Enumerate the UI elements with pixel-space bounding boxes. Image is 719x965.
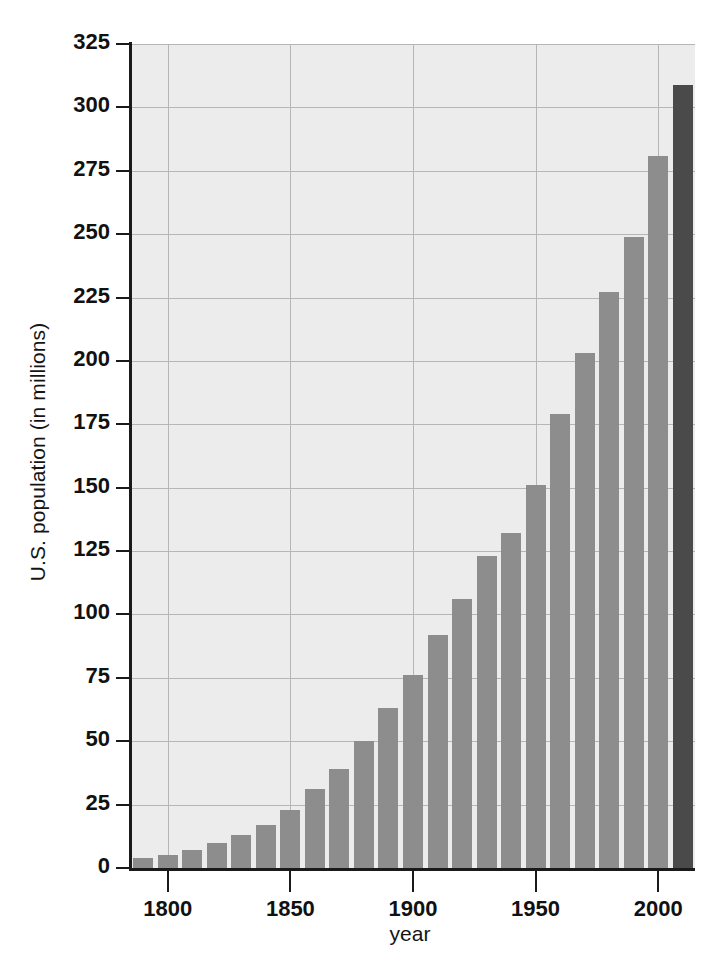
bar-1890 (378, 708, 398, 868)
y-tick-label-50: 50 (0, 726, 110, 752)
bar-1900 (403, 675, 423, 868)
bar-1940 (501, 533, 521, 868)
y-tick-mark (116, 677, 130, 679)
y-tick-label-150: 150 (0, 473, 110, 499)
bar-1950 (526, 485, 546, 868)
y-tick-label-200: 200 (0, 346, 110, 372)
y-tick-label-75: 75 (0, 663, 110, 689)
bar-1840 (256, 825, 276, 868)
x-tick-mark (167, 870, 169, 892)
bar-2010 (673, 85, 693, 868)
y-tick-mark (116, 867, 130, 869)
y-tick-mark (116, 360, 130, 362)
bar-1980 (599, 292, 619, 868)
bar-1800 (158, 855, 178, 868)
bar-chart: U.S. population (in millions) 0255075100… (0, 0, 719, 965)
y-tick-label-125: 125 (0, 536, 110, 562)
y-tick-label-300: 300 (0, 92, 110, 118)
y-tick-mark (116, 297, 130, 299)
y-tick-label-325: 325 (0, 29, 110, 55)
bar-1990 (624, 237, 644, 868)
x-tick-label-2000: 2000 (603, 896, 713, 922)
y-tick-mark (116, 423, 130, 425)
bar-1970 (575, 353, 595, 868)
y-tick-mark (116, 613, 130, 615)
y-axis-line (129, 42, 132, 870)
x-tick-label-1900: 1900 (358, 896, 468, 922)
y-tick-mark (116, 740, 130, 742)
bar-1860 (305, 789, 325, 868)
y-tick-label-275: 275 (0, 156, 110, 182)
bar-1810 (182, 850, 202, 868)
y-tick-mark (116, 43, 130, 45)
y-tick-label-25: 25 (0, 790, 110, 816)
bar-1920 (452, 599, 472, 868)
bar-2000 (648, 156, 668, 868)
y-tick-mark (116, 170, 130, 172)
x-tick-label-1850: 1850 (235, 896, 345, 922)
bar-1850 (280, 810, 300, 868)
y-tick-mark (116, 550, 130, 552)
bar-1880 (354, 741, 374, 868)
y-tick-mark (116, 106, 130, 108)
bar-1830 (231, 835, 251, 868)
bar-1930 (477, 556, 497, 868)
bars-layer (131, 44, 695, 868)
x-tick-mark (289, 870, 291, 892)
x-tick-label-1800: 1800 (113, 896, 223, 922)
y-tick-label-100: 100 (0, 599, 110, 625)
y-tick-mark (116, 804, 130, 806)
y-tick-label-0: 0 (0, 853, 110, 879)
bar-1960 (550, 414, 570, 868)
x-tick-mark (412, 870, 414, 892)
y-tick-label-250: 250 (0, 219, 110, 245)
bar-1870 (329, 769, 349, 868)
x-tick-mark (657, 870, 659, 892)
x-tick-label-1950: 1950 (481, 896, 591, 922)
y-tick-mark (116, 487, 130, 489)
x-axis-title: year (130, 922, 690, 946)
y-tick-mark (116, 233, 130, 235)
x-tick-mark (535, 870, 537, 892)
bar-1820 (207, 843, 227, 868)
y-tick-label-175: 175 (0, 409, 110, 435)
bar-1910 (428, 635, 448, 868)
y-tick-label-225: 225 (0, 283, 110, 309)
bar-1790 (133, 858, 153, 868)
